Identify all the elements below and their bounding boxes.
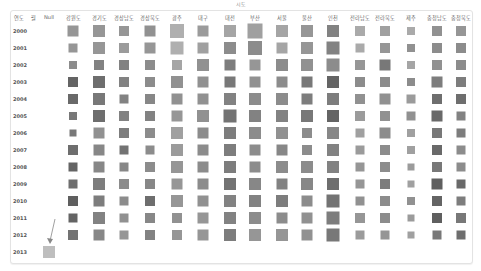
arrow-annotation-icon [0, 0, 481, 271]
